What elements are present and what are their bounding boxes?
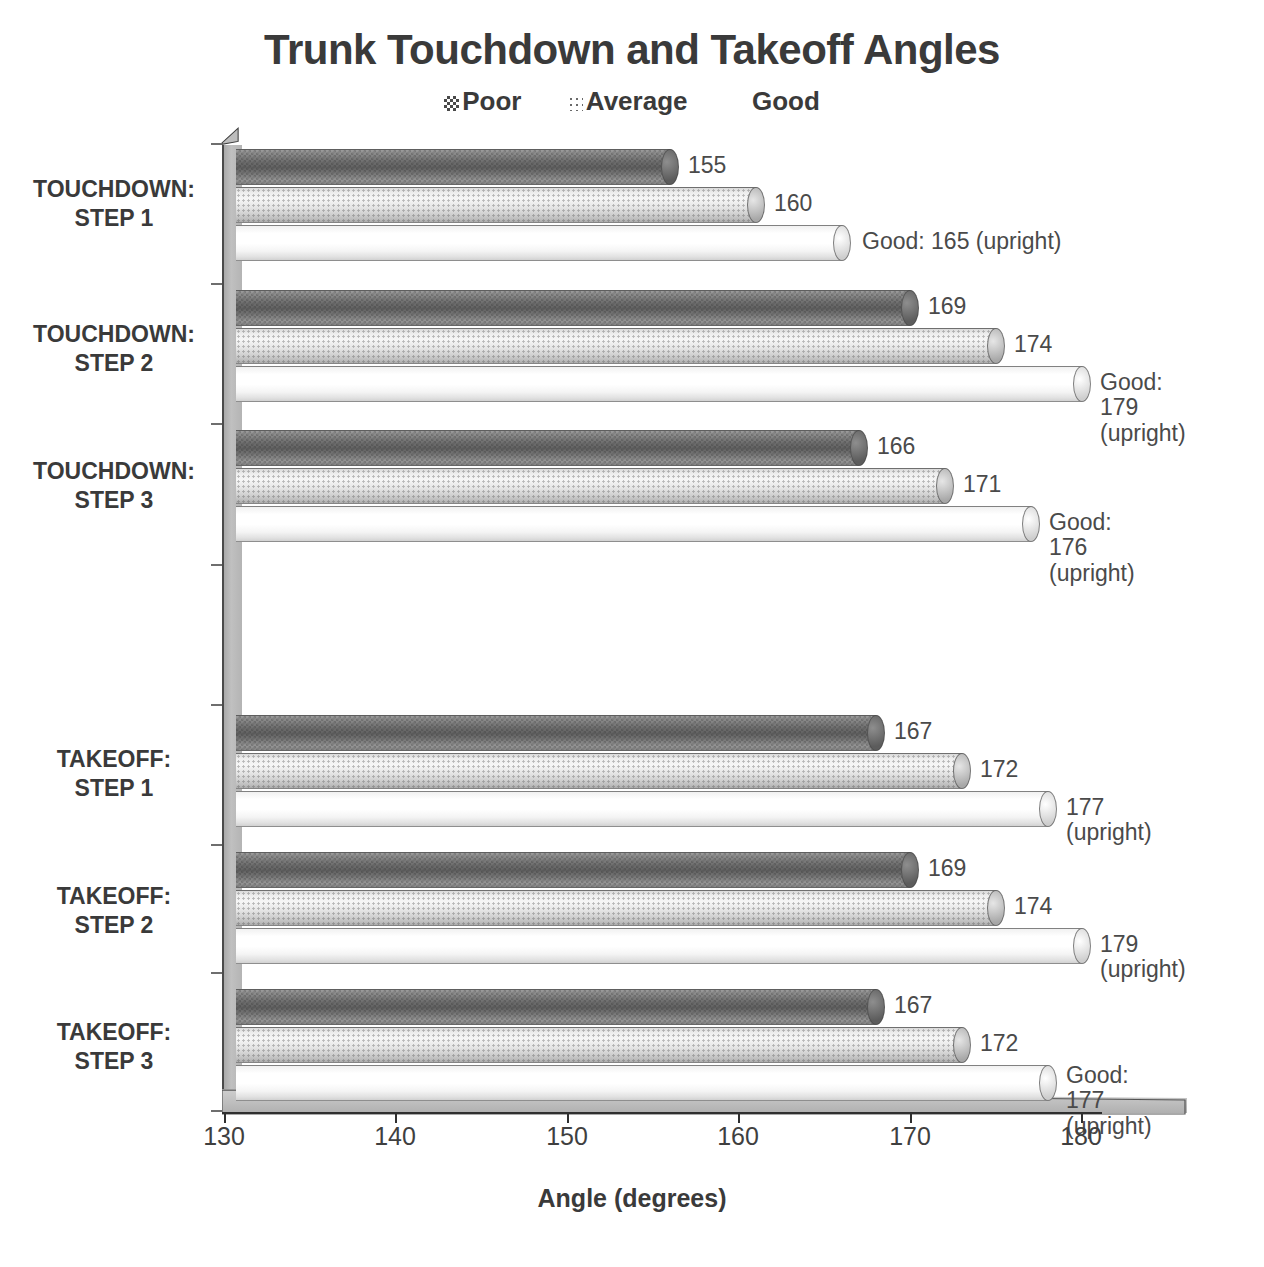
dotted-pattern-swatch-icon	[568, 96, 583, 111]
x-tick-label-130: 130	[189, 1122, 259, 1151]
bar-value-takeoff-step-1-poor: 167	[894, 719, 932, 744]
x-tick-label-160: 160	[703, 1122, 773, 1151]
y-category-label-touchdown-step-1: TOUCHDOWN: STEP 1	[4, 175, 224, 233]
legend-item-average[interactable]: Average	[568, 86, 688, 117]
bar-value-touchdown-step-1-poor: 155	[688, 153, 726, 178]
bar-value-touchdown-step-2-average: 174	[1014, 332, 1052, 357]
blank-white-swatch-icon	[734, 96, 749, 111]
bar-value-touchdown-step-3-good: Good: 176 (upright)	[1049, 510, 1135, 586]
x-tick-label-140: 140	[360, 1122, 430, 1151]
y-axis-tick	[211, 423, 222, 425]
y-axis-tick	[211, 283, 222, 285]
bar-value-takeoff-step-2-poor: 169	[928, 856, 966, 881]
y-axis-tick	[211, 972, 222, 974]
bar-value-takeoff-step-2-good: 179 (upright)	[1100, 932, 1186, 983]
legend-item-good[interactable]: Good	[734, 86, 820, 117]
checkered-pattern-swatch-icon	[444, 96, 459, 111]
bar-takeoff-step-1-average[interactable]	[236, 753, 962, 789]
bar-takeoff-step-2-poor[interactable]	[236, 852, 910, 888]
bar-value-takeoff-step-1-good: 177 (upright)	[1066, 795, 1152, 846]
y-category-label-touchdown-step-2: TOUCHDOWN: STEP 2	[4, 320, 224, 378]
legend-label-good: Good	[752, 86, 820, 117]
bar-value-takeoff-step-1-average: 172	[980, 757, 1018, 782]
chart-title: Trunk Touchdown and Takeoff Angles	[0, 26, 1264, 74]
bar-value-touchdown-step-1-good: Good: 165 (upright)	[862, 229, 1061, 254]
legend-label-poor: Poor	[462, 86, 521, 117]
y-axis-tick	[211, 704, 222, 706]
bar-touchdown-step-2-poor[interactable]	[236, 290, 910, 326]
bar-touchdown-step-3-poor[interactable]	[236, 430, 859, 466]
bar-takeoff-step-3-poor[interactable]	[236, 989, 876, 1025]
plot-area: 155 160 Good: 165 (upright) 169 174 Good…	[222, 127, 1102, 1112]
bar-value-touchdown-step-3-average: 171	[963, 472, 1001, 497]
bar-takeoff-step-1-good[interactable]	[236, 791, 1048, 827]
y-category-label-touchdown-step-3: TOUCHDOWN: STEP 3	[4, 457, 224, 515]
x-axis-line	[222, 1112, 1102, 1114]
bar-takeoff-step-3-average[interactable]	[236, 1027, 962, 1063]
bar-touchdown-step-3-average[interactable]	[236, 468, 945, 504]
chart-wall-top-bevel-icon	[222, 127, 244, 147]
bar-touchdown-step-2-good[interactable]	[236, 366, 1082, 402]
y-axis-tick	[211, 844, 222, 846]
legend-label-average: Average	[586, 86, 688, 117]
bar-touchdown-step-1-good[interactable]	[236, 225, 842, 261]
x-tick-label-180: 180	[1046, 1122, 1116, 1151]
x-tick-label-170: 170	[875, 1122, 945, 1151]
x-axis-title: Angle (degrees)	[0, 1184, 1264, 1213]
y-category-label-takeoff-step-2: TAKEOFF: STEP 2	[4, 882, 224, 940]
bar-touchdown-step-2-average[interactable]	[236, 328, 996, 364]
bar-takeoff-step-3-good[interactable]	[236, 1065, 1048, 1101]
bar-takeoff-step-2-good[interactable]	[236, 928, 1082, 964]
chart-container: Trunk Touchdown and Takeoff Angles Poor …	[0, 0, 1264, 1267]
bar-value-touchdown-step-1-average: 160	[774, 191, 812, 216]
chart-legend: Poor Average Good	[0, 86, 1264, 117]
bar-touchdown-step-1-poor[interactable]	[236, 149, 670, 185]
bar-takeoff-step-2-average[interactable]	[236, 890, 996, 926]
bar-value-touchdown-step-2-good: Good: 179 (upright)	[1100, 370, 1186, 446]
y-category-label-takeoff-step-3: TAKEOFF: STEP 3	[4, 1018, 224, 1076]
legend-item-poor[interactable]: Poor	[444, 86, 521, 117]
bar-value-touchdown-step-2-poor: 169	[928, 294, 966, 319]
bar-value-takeoff-step-2-average: 174	[1014, 894, 1052, 919]
y-axis-tick	[211, 1110, 222, 1112]
bar-touchdown-step-1-average[interactable]	[236, 187, 756, 223]
x-tick-label-150: 150	[532, 1122, 602, 1151]
bar-takeoff-step-1-poor[interactable]	[236, 715, 876, 751]
y-axis-tick	[211, 143, 222, 145]
y-category-label-takeoff-step-1: TAKEOFF: STEP 1	[4, 745, 224, 803]
bar-value-takeoff-step-3-poor: 167	[894, 993, 932, 1018]
y-axis-tick	[211, 564, 222, 566]
bar-touchdown-step-3-good[interactable]	[236, 506, 1031, 542]
bar-value-touchdown-step-3-poor: 166	[877, 434, 915, 459]
bar-value-takeoff-step-3-average: 172	[980, 1031, 1018, 1056]
